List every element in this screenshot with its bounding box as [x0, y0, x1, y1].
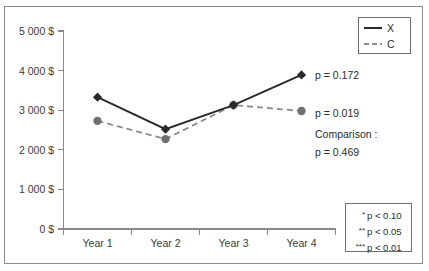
- y-tick-label-5000: 5 000 $: [19, 25, 54, 37]
- series-x: [93, 70, 306, 133]
- x-tick-label-year-3: Year 3: [219, 237, 249, 249]
- series-x-point-year-3: [229, 100, 238, 109]
- annotation-comparison-p: p = 0.469: [315, 146, 359, 158]
- series-c: [93, 101, 305, 143]
- significance-note: * p < 0.10 ** p < 0.05 *** p < 0.01: [346, 204, 412, 254]
- significance-text-2: p < 0.05: [367, 226, 402, 237]
- x-tick-label-year-1: Year 1: [83, 237, 113, 249]
- x-tick-label-year-2: Year 2: [151, 237, 181, 249]
- significance-stars-1: *: [362, 210, 365, 219]
- series-x-line: [98, 75, 302, 129]
- y-tick-label-1000: 1 000 $: [19, 183, 54, 195]
- x-tick-label-year-4: Year 4: [287, 237, 317, 249]
- legend-label-x: X: [387, 22, 394, 34]
- legend-box: [359, 18, 411, 54]
- y-tick-label-2000: 2 000 $: [19, 144, 54, 156]
- annotation-comparison-label: Comparison :: [315, 128, 377, 140]
- significance-stars-2: **: [359, 226, 365, 235]
- annotation-p-series-x: p = 0.172: [315, 69, 359, 81]
- significance-stars-3: ***: [356, 242, 365, 251]
- significance-text-1: p < 0.10: [367, 210, 402, 221]
- significance-text-3: p < 0.01: [367, 242, 402, 253]
- series-x-point-year-2: [161, 125, 170, 134]
- series-c-line: [98, 105, 302, 139]
- legend-label-c: C: [387, 38, 395, 50]
- legend[interactable]: X C: [359, 18, 411, 54]
- y-tick-label-3000: 3 000 $: [19, 104, 54, 116]
- y-tick-label-4000: 4 000 $: [19, 65, 54, 77]
- annotations: p = 0.172 p = 0.019 Comparison : p = 0.4…: [315, 69, 377, 158]
- x-axis: Year 1 Year 2 Year 3 Year 4: [64, 229, 337, 249]
- series-c-point-year-2: [161, 135, 169, 143]
- chart-page: 5 000 $ 4 000 $ 3 000 $ 2 000 $ 1 000 $ …: [0, 0, 429, 271]
- figure-frame: 5 000 $ 4 000 $ 3 000 $ 2 000 $ 1 000 $ …: [4, 6, 423, 264]
- line-chart: 5 000 $ 4 000 $ 3 000 $ 2 000 $ 1 000 $ …: [5, 7, 422, 263]
- series-x-point-year-1: [93, 93, 102, 102]
- y-axis: 5 000 $ 4 000 $ 3 000 $ 2 000 $ 1 000 $ …: [19, 25, 64, 235]
- series-c-point-year-4: [297, 107, 305, 115]
- annotation-p-series-c: p = 0.019: [315, 107, 359, 119]
- series-c-point-year-1: [93, 117, 101, 125]
- y-tick-label-0: 0 $: [39, 223, 54, 235]
- series-x-point-year-4: [297, 70, 306, 79]
